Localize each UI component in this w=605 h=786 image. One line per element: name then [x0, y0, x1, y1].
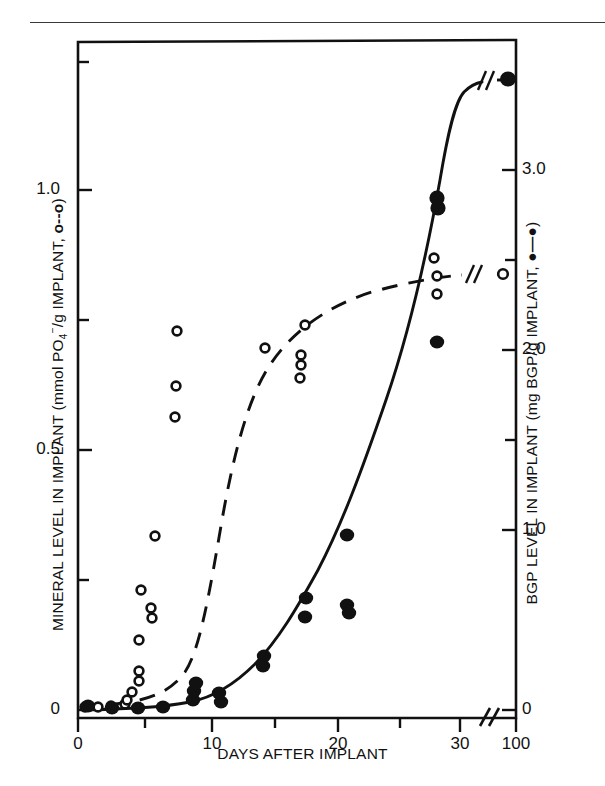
y-axis-left-ticks: [78, 62, 92, 710]
y-left-tick-label-0: 0: [14, 699, 60, 719]
x-axis-ticks: [78, 718, 516, 732]
y-axis-right-title: BGP LEVEL IN IMPLANT (mg BGP/g IMPLANT, …: [523, 133, 541, 693]
y-right-tick-label-0: 0: [522, 699, 568, 719]
y-axis-left-title: MINERAL LEVEL IN IMPLANT (mmol PO4−/g IM…: [47, 135, 68, 695]
x-axis-title: DAYS AFTER IMPLANT: [0, 745, 605, 763]
series-bgp-points: [81, 72, 516, 715]
series-mineral-points: [81, 254, 508, 712]
y-axis-right-ticks: [502, 80, 516, 710]
bgp-curve-break-icon: [478, 71, 494, 90]
figure-panel: 1.0 0.5 0 3.0 2.0 1.0 0 0 10 20 30 100 M…: [0, 0, 605, 786]
mineral-curve-break-icon: [466, 265, 482, 283]
chart-canvas: [0, 0, 605, 786]
